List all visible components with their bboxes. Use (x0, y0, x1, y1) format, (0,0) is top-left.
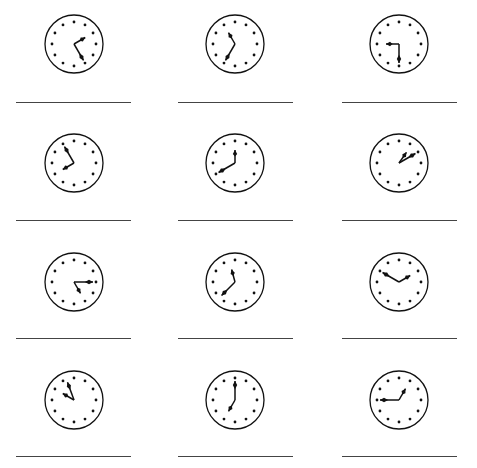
hour-hand-icon (229, 33, 236, 44)
answer-line[interactable] (178, 338, 293, 339)
answer-line[interactable] (342, 338, 457, 339)
clock-face (203, 368, 267, 432)
clock-face (203, 131, 267, 195)
minute-hand-icon (65, 147, 75, 163)
hour-hand-icon (229, 400, 236, 411)
hour-hand-icon (74, 38, 85, 45)
clock-face (367, 368, 431, 432)
clock-face (42, 131, 106, 195)
answer-line[interactable] (342, 220, 457, 221)
hour-hand-icon (399, 389, 406, 400)
minute-hand-icon (380, 398, 399, 402)
clock-face (367, 12, 431, 76)
clock-face (42, 12, 106, 76)
answer-line[interactable] (16, 456, 131, 457)
minute-hand-icon (397, 44, 401, 63)
answer-line[interactable] (178, 102, 293, 103)
hour-hand-icon (63, 163, 74, 170)
hour-hand-icon (233, 150, 237, 163)
clock-face (203, 12, 267, 76)
clock-face (42, 368, 106, 432)
minute-hand-icon (219, 163, 235, 173)
minute-hand-icon (74, 44, 84, 60)
answer-line[interactable] (16, 220, 131, 221)
answer-line[interactable] (16, 102, 131, 103)
clock-face (203, 250, 267, 314)
answer-line[interactable] (342, 456, 457, 457)
minute-hand-icon (383, 273, 399, 283)
clock-face (42, 250, 106, 314)
minute-hand-icon (222, 282, 235, 295)
hour-hand-icon (74, 282, 81, 293)
clock-face (367, 131, 431, 195)
answer-line[interactable] (178, 456, 293, 457)
minute-hand-icon (74, 280, 93, 284)
clock-face (367, 250, 431, 314)
answer-line[interactable] (342, 102, 457, 103)
hour-hand-icon (399, 276, 410, 283)
hour-hand-icon (231, 269, 235, 282)
minute-hand-icon (233, 381, 237, 400)
minute-hand-icon (226, 44, 236, 60)
hour-hand-icon (386, 42, 399, 46)
answer-line[interactable] (178, 220, 293, 221)
answer-line[interactable] (16, 338, 131, 339)
